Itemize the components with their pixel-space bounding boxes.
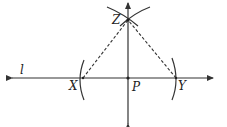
label-x: X [68, 79, 78, 93]
label-y: Y [178, 79, 187, 93]
label-p: P [131, 80, 141, 94]
point-x [82, 77, 84, 79]
point-y [175, 77, 177, 79]
segment-yz [128, 20, 176, 78]
perpendicular-construction-diagram: l X Y Z P [0, 0, 227, 127]
segment-xz [83, 20, 128, 78]
arc-x [80, 60, 84, 100]
label-l: l [20, 63, 24, 77]
label-z: Z [111, 13, 121, 27]
point-p [126, 76, 129, 79]
point-z [126, 18, 129, 21]
